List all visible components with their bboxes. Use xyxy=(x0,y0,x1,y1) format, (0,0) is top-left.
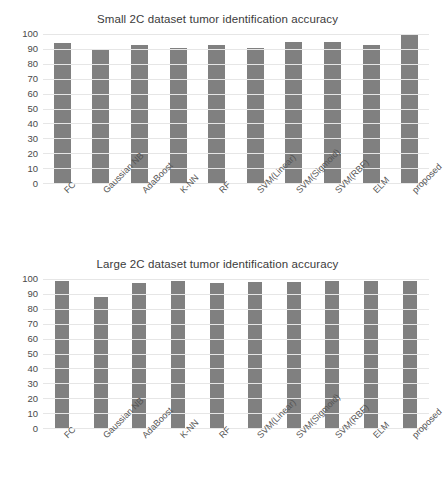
gridline xyxy=(43,109,429,110)
x-axis-small-2c: FCGaussian NBAdaBoostK-NNRFSVM(Linear)SV… xyxy=(43,184,429,246)
y-tick-label: 30 xyxy=(27,134,38,144)
y-axis-small-2c: 1009080706050403020100 xyxy=(0,34,38,184)
bar xyxy=(248,282,262,428)
y-tick-label: 10 xyxy=(27,164,38,174)
gridline xyxy=(43,279,429,280)
bar xyxy=(170,48,187,183)
y-tick-label: 80 xyxy=(27,59,38,69)
gridline xyxy=(43,309,429,310)
plot-area-large-2c xyxy=(43,279,429,429)
plot-wrap-small-2c: 1009080706050403020100 xyxy=(0,34,435,184)
gridline xyxy=(43,94,429,95)
bar xyxy=(210,283,224,428)
gridline xyxy=(43,123,429,124)
y-tick-label: 20 xyxy=(27,394,38,404)
gridline xyxy=(43,49,429,50)
y-tick-label: 40 xyxy=(27,364,38,374)
x-axis-large-2c: FCGaussian NBAdaBoostK-NNRFSVM(Linear)SV… xyxy=(43,429,429,491)
gridline xyxy=(43,354,429,355)
gridline xyxy=(43,138,429,139)
y-tick-label: 90 xyxy=(27,289,38,299)
gridline xyxy=(43,398,429,399)
y-tick-label: 100 xyxy=(22,274,38,284)
chart-large-2c: Large 2C dataset tumor identification ac… xyxy=(0,255,435,500)
gridline xyxy=(43,153,429,154)
bar xyxy=(247,48,264,183)
gridline xyxy=(43,383,429,384)
y-tick-label: 0 xyxy=(33,424,38,434)
gridline xyxy=(43,324,429,325)
gridline xyxy=(43,168,429,169)
gridline xyxy=(43,339,429,340)
y-tick-label: 0 xyxy=(33,179,38,189)
plot-wrap-large-2c: 1009080706050403020100 xyxy=(0,279,435,429)
y-tick-label: 60 xyxy=(27,89,38,99)
y-tick-label: 30 xyxy=(27,379,38,389)
gridline xyxy=(43,368,429,369)
y-tick-label: 10 xyxy=(27,409,38,419)
bar xyxy=(94,297,108,428)
plot-area-small-2c xyxy=(43,34,429,184)
y-tick-label: 100 xyxy=(22,29,38,39)
y-tick-label: 80 xyxy=(27,304,38,314)
gridline xyxy=(43,79,429,80)
chart-title-large-2c: Large 2C dataset tumor identification ac… xyxy=(0,255,435,273)
y-axis-large-2c: 1009080706050403020100 xyxy=(0,279,38,429)
y-tick-label: 20 xyxy=(27,149,38,159)
bar xyxy=(92,49,109,183)
gridline xyxy=(43,413,429,414)
y-tick-label: 70 xyxy=(27,319,38,329)
chart-small-2c: Small 2C dataset tumor identification ac… xyxy=(0,10,435,255)
y-tick-label: 60 xyxy=(27,334,38,344)
y-tick-label: 50 xyxy=(27,104,38,114)
gridline xyxy=(43,294,429,295)
bar xyxy=(403,281,417,428)
y-tick-label: 70 xyxy=(27,74,38,84)
bar xyxy=(208,45,225,183)
chart-title-small-2c: Small 2C dataset tumor identification ac… xyxy=(0,10,435,28)
gridline xyxy=(43,34,429,35)
gridline xyxy=(43,64,429,65)
y-tick-label: 50 xyxy=(27,349,38,359)
y-tick-label: 40 xyxy=(27,119,38,129)
y-tick-label: 90 xyxy=(27,44,38,54)
